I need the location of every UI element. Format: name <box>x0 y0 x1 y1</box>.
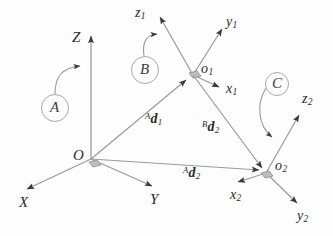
callout-a-group <box>42 66 81 122</box>
z2-axis-label: z2 <box>302 92 313 108</box>
callout-b-leader <box>144 34 157 56</box>
z2-axis-subscript: 2 <box>307 97 312 107</box>
world-frame-axes <box>27 36 152 189</box>
y-axis-line <box>91 159 152 186</box>
x2-axis-subscript: 2 <box>236 193 241 203</box>
callout-a-label: A <box>50 100 59 115</box>
vector-b-d2-subscript: 2 <box>214 125 219 135</box>
x-axis-label: X <box>19 195 28 210</box>
y1-axis-label: y1 <box>226 15 237 31</box>
x-axis-line <box>27 159 91 189</box>
x1-axis-label: x1 <box>226 82 237 98</box>
vector-a-d1-subscript: 1 <box>157 117 162 127</box>
frame2-origin-subscript: 2 <box>282 164 287 174</box>
callout-c-label: C <box>272 76 282 91</box>
z1-axis-subscript: 1 <box>140 11 145 21</box>
z1-axis-line <box>160 17 193 75</box>
figure-canvas: O X Y Z o1 x1 y1 z1 o2 x2 y2 z2 A B C Ad… <box>0 0 333 236</box>
callout-a-leader <box>55 66 80 94</box>
vector-a-d1-label: Ad1 <box>145 112 162 127</box>
frame1-origin-letter: o <box>201 61 208 76</box>
vector-a-d2-line <box>91 159 259 170</box>
vector-a-d2-label: Ad2 <box>183 166 200 181</box>
vector-a-d1-line <box>91 80 186 159</box>
vector-a-d2-subscript: 2 <box>195 171 200 181</box>
world-origin-marker <box>89 160 101 167</box>
callout-c-leader <box>260 88 272 137</box>
y2-axis-subscript: 2 <box>303 214 308 224</box>
frame2-origin-letter: o <box>275 158 282 173</box>
frame1-origin-subscript: 1 <box>208 67 213 77</box>
x2-axis-label: x2 <box>230 188 241 204</box>
frame2-origin-label: o2 <box>275 159 287 175</box>
frame2-origin-marker <box>261 171 273 178</box>
y-axis-label: Y <box>150 192 158 207</box>
z1-axis-label: z1 <box>135 6 146 22</box>
vector-b-d2-label: Bd2 <box>202 120 219 135</box>
diagram-svg <box>0 0 333 236</box>
z-axis-label: Z <box>72 30 80 45</box>
y1-axis-subscript: 1 <box>232 20 237 30</box>
y2-axis-line <box>266 173 297 203</box>
frame2-axes <box>238 115 299 203</box>
callout-b-label: B <box>140 62 149 77</box>
x1-axis-subscript: 1 <box>232 87 237 97</box>
frame1-origin-label: o1 <box>201 62 213 78</box>
world-origin-label: O <box>73 148 84 163</box>
y2-axis-label: y2 <box>297 209 308 225</box>
